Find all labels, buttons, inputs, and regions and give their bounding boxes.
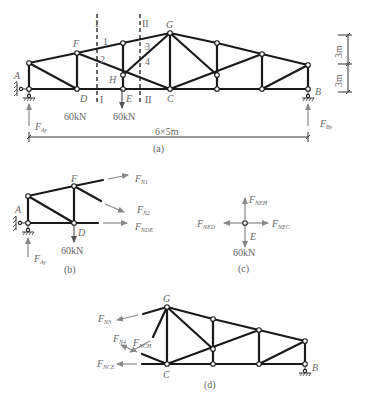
node-label-F-b: F [70, 173, 78, 184]
force-label-NEH: FNEH [248, 194, 268, 206]
force-N2-arrow-icon [105, 204, 124, 212]
panel-a: A F D E H G C B I I II II 1 2 3 4 60kN 6… [13, 14, 352, 155]
panel-d: FN3 FN4 FNCH FNCE G C B (d) [96, 293, 318, 391]
height-label-bottom: 3m [333, 74, 344, 87]
load-label-E: 60kN [113, 111, 135, 122]
panel-c: FNEH FNED FNEC E 60kN (c) [196, 194, 291, 275]
node-label-E-c: E [249, 231, 256, 242]
force-label-NCE: FNCE [96, 358, 115, 370]
span-label: 6×5m [155, 126, 179, 137]
caption-c: (c) [238, 263, 249, 275]
height-label-top: 3m [333, 45, 344, 58]
caption-b: (b) [64, 264, 76, 276]
reaction-label-Ay: FAy [34, 121, 47, 133]
caption-d: (d) [204, 379, 216, 391]
node-label-B: B [315, 86, 321, 97]
section-label-II-bottom: II [145, 94, 152, 105]
load-label-b: 60kN [61, 245, 83, 256]
force-label-N4: FN4 [112, 333, 126, 345]
force-label-N3: FN3 [97, 313, 111, 325]
force-label-N2: FN2 [136, 204, 150, 216]
support-A-icon [14, 81, 35, 101]
node-label-E: E [125, 93, 132, 104]
node-label-G-d: G [163, 293, 170, 304]
force-label-NCH: FNCH [132, 337, 152, 349]
node-label-B-d: B [312, 362, 318, 373]
support-A-b-icon [13, 216, 34, 235]
node-label-D: D [79, 93, 88, 104]
node-E-c [243, 221, 248, 226]
member-number-3: 3 [145, 41, 150, 52]
caption-a: (a) [153, 143, 164, 155]
reaction-label-By: FBy [319, 118, 333, 130]
node-label-C-d: C [163, 369, 170, 380]
node-label-A-b: A [14, 204, 22, 215]
force-label-N1: FN1 [134, 173, 148, 185]
node-label-A: A [13, 70, 21, 81]
section-label-I-top: I [95, 18, 98, 29]
force-N1-arrow-icon [108, 175, 128, 179]
node-label-H: H [108, 74, 117, 85]
force-label-NEC: FNEC [271, 218, 291, 230]
panel-b: A F D 60kN FN1 FN2 FNDE FAy (b) [13, 173, 153, 276]
top-chord [29, 33, 308, 65]
truss-nodes [27, 31, 311, 92]
node-label-D-b: D [77, 227, 86, 238]
node-label-G: G [166, 19, 173, 30]
reaction-label-Ay-b: FAy [33, 253, 46, 265]
load-label-c: 60kN [233, 247, 255, 258]
node-label-F: F [72, 38, 80, 49]
load-label-D: 60kN [64, 111, 86, 122]
member-number-2: 2 [100, 54, 105, 65]
support-B-d-icon [299, 366, 311, 376]
force-label-NED: FNED [196, 218, 216, 230]
section-label-II-top: II [142, 18, 149, 29]
force-N3-arrow-icon [117, 315, 138, 320]
node-label-C: C [167, 93, 174, 104]
member-number-1: 1 [103, 36, 108, 47]
section-label-I-bottom: I [100, 94, 103, 105]
support-B-icon [302, 91, 314, 101]
member-number-4: 4 [145, 56, 150, 67]
truss-diagram: A F D E H G C B I I II II 1 2 3 4 60kN 6… [0, 0, 365, 396]
force-label-NDE: FNDE [134, 221, 153, 233]
